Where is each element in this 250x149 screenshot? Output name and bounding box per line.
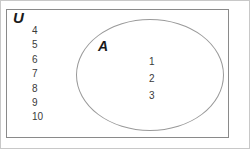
list-item: 9	[32, 96, 38, 110]
list-item: 4	[32, 24, 38, 38]
set-a-member-list: 1 2 3	[149, 53, 169, 104]
venn-diagram-figure: U 4 5 6 7 8 9 10 A 1 2 3	[0, 0, 250, 149]
list-item: 5	[32, 38, 38, 52]
list-item: 7	[32, 67, 38, 81]
universal-set-member-list: 4 5 6 7 8 9 10	[32, 24, 54, 125]
set-a-label: A	[98, 39, 108, 53]
list-item: 3	[149, 87, 155, 104]
list-item: 6	[32, 53, 38, 67]
list-item: 8	[32, 82, 38, 96]
list-item: 2	[149, 70, 155, 87]
list-item: 1	[149, 53, 155, 70]
universal-set-label: U	[13, 10, 24, 25]
list-item: 10	[32, 110, 43, 124]
